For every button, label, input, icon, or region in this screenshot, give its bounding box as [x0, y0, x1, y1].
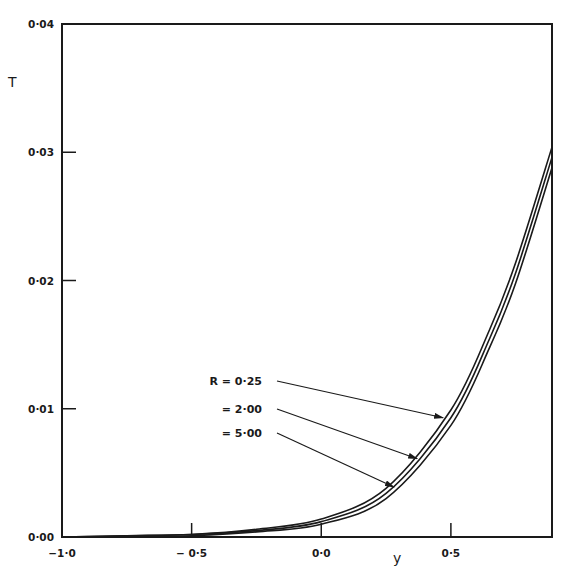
- legend-label-1: = 2·00: [222, 403, 263, 416]
- x-tick-label: 0·5: [442, 547, 461, 559]
- x-axis-title: y: [393, 550, 401, 566]
- y-tick-label: 0·00: [28, 531, 54, 543]
- x-tick-label: −1·0: [48, 547, 75, 559]
- y-tick-label: 0·02: [28, 275, 54, 287]
- y-tick-label: 0·01: [28, 403, 54, 415]
- chart: 0·000·010·020·030·04 −1·0− 0·50·00·5 T y…: [0, 0, 570, 586]
- data-series: [62, 147, 552, 537]
- x-tick-label: 0·0: [312, 547, 331, 559]
- legend-arrow-2: [277, 433, 394, 487]
- series-line-0: [62, 147, 552, 537]
- legend-arrow-1: [277, 409, 417, 459]
- plot-frame: [62, 24, 552, 537]
- legend-annotations: R = 0·25= 2·00= 5·00: [210, 375, 444, 487]
- y-axis-title: T: [7, 74, 17, 90]
- legend-label-2: = 5·00: [222, 427, 263, 440]
- series-line-2: [62, 168, 552, 537]
- legend-label-0: R = 0·25: [210, 375, 263, 388]
- x-tick-label: − 0·5: [176, 547, 207, 559]
- y-tick-label: 0·04: [28, 18, 54, 30]
- series-line-1: [62, 157, 552, 537]
- y-axis-ticks: 0·000·010·020·030·04: [28, 18, 76, 543]
- legend-arrow-0: [277, 381, 443, 418]
- y-tick-label: 0·03: [28, 146, 54, 158]
